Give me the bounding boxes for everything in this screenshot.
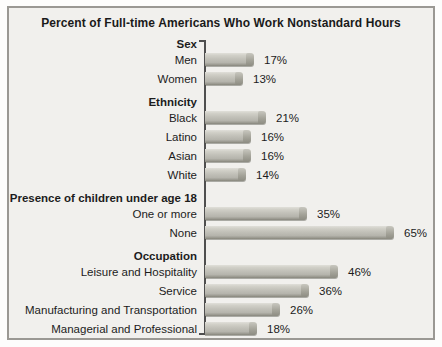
category-label: White	[9, 169, 205, 181]
bar-cell: 16%	[205, 130, 433, 143]
bar-cell: 26%	[205, 303, 433, 316]
category-label: Managerial and Professional	[9, 323, 205, 335]
group-row: Occupation	[9, 245, 433, 262]
value-label: 21%	[276, 112, 299, 124]
bar-end-cap	[386, 226, 394, 239]
group-header-label: Ethnicity	[9, 96, 205, 108]
bar	[205, 284, 309, 297]
category-label: Women	[9, 73, 205, 85]
bar	[205, 72, 243, 85]
bar-row: Women13%	[9, 69, 433, 88]
bar-row: Managerial and Professional18%	[9, 319, 433, 338]
bar	[205, 111, 266, 124]
bar	[205, 322, 257, 335]
category-label: One or more	[9, 208, 205, 220]
bar-row: White14%	[9, 165, 433, 184]
bar-row: One or more35%	[9, 204, 433, 223]
bar-end-cap	[243, 130, 251, 143]
bar-cell: 13%	[205, 72, 433, 85]
chart-panel: Percent of Full-time Americans Who Work …	[7, 6, 435, 340]
bar-cell: 14%	[205, 168, 433, 181]
bar-cell: 17%	[205, 53, 433, 66]
category-label: Latino	[9, 131, 205, 143]
bar-row: Manufacturing and Transportation26%	[9, 300, 433, 319]
bar-end-cap	[243, 149, 251, 162]
bar	[205, 168, 246, 181]
bar	[205, 226, 394, 239]
category-label: Manufacturing and Transportation	[9, 304, 205, 316]
value-label: 16%	[261, 131, 284, 143]
value-label: 14%	[256, 169, 279, 181]
bar-cell: 36%	[205, 284, 433, 297]
bar-end-cap	[272, 303, 280, 316]
bar-end-cap	[235, 72, 243, 85]
category-label: Service	[9, 285, 205, 297]
bar-row: Leisure and Hospitality46%	[9, 262, 433, 281]
bar-row: Black21%	[9, 108, 433, 127]
group-row: Ethnicity	[9, 91, 433, 108]
value-label: 17%	[264, 54, 287, 66]
group-header-label: Sex	[9, 38, 205, 50]
category-label: Leisure and Hospitality	[9, 266, 205, 278]
bar-end-cap	[249, 322, 257, 335]
value-label: 36%	[319, 285, 342, 297]
category-label: Asian	[9, 150, 205, 162]
bar	[205, 207, 307, 220]
bar-chart: SexMen17%Women13%EthnicityBlack21%Latino…	[9, 35, 433, 338]
bar-end-cap	[299, 207, 307, 220]
bar-row: None65%	[9, 223, 433, 242]
category-label: Black	[9, 112, 205, 124]
bar-cell: 18%	[205, 322, 433, 335]
bar-row: Service36%	[9, 281, 433, 300]
value-label: 16%	[261, 150, 284, 162]
bar-row: Men17%	[9, 50, 433, 69]
bar	[205, 149, 251, 162]
group-header-label: Occupation	[9, 250, 205, 262]
bar	[205, 303, 280, 316]
bar-cell: 21%	[205, 111, 433, 124]
value-label: 18%	[267, 323, 290, 335]
bar	[205, 265, 338, 278]
chart-rows: SexMen17%Women13%EthnicityBlack21%Latino…	[9, 35, 433, 338]
group-row: Presence of children under age 18	[9, 187, 433, 204]
bar-end-cap	[301, 284, 309, 297]
bar-end-cap	[258, 111, 266, 124]
figure-page: { "chart_data": { "type": "bar", "orient…	[0, 0, 442, 347]
group-row: Sex	[9, 35, 433, 50]
bar	[205, 53, 254, 66]
value-label: 46%	[348, 266, 371, 278]
bar-end-cap	[238, 168, 246, 181]
bar-cell: 35%	[205, 207, 433, 220]
bar	[205, 130, 251, 143]
bar-cell: 16%	[205, 149, 433, 162]
value-label: 13%	[253, 73, 276, 85]
category-label: None	[9, 227, 205, 239]
bar-row: Latino16%	[9, 127, 433, 146]
value-label: 26%	[290, 304, 313, 316]
value-label: 35%	[317, 208, 340, 220]
bar-row: Asian16%	[9, 146, 433, 165]
bar-cell: 46%	[205, 265, 433, 278]
bar-cell: 65%	[205, 226, 433, 239]
value-label: 65%	[404, 227, 427, 239]
bar-end-cap	[246, 53, 254, 66]
category-label: Men	[9, 54, 205, 66]
bar-end-cap	[330, 265, 338, 278]
group-header-label: Presence of children under age 18	[9, 192, 205, 204]
chart-title: Percent of Full-time Americans Who Work …	[9, 16, 433, 30]
